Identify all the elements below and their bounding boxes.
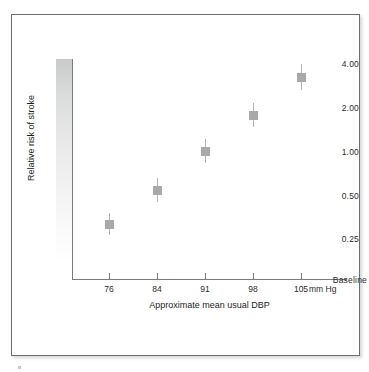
x-tick-mark-98 bbox=[253, 273, 254, 280]
y-tick-label-0_25: 0.25 bbox=[311, 234, 359, 244]
figure-canvas: 4.00 2.00 1.00 0.50 0.25 Baseline Relati… bbox=[0, 0, 369, 372]
marker-square-76 bbox=[105, 220, 114, 229]
marker-square-98 bbox=[249, 111, 258, 120]
marker-square-91 bbox=[201, 147, 210, 156]
marker-square-84 bbox=[153, 186, 162, 195]
x-tick-label-98: 98 bbox=[233, 284, 273, 294]
y-axis-gradient-band bbox=[56, 59, 72, 280]
x-tick-label-84: 84 bbox=[137, 284, 177, 294]
x-tick-mark-105 bbox=[301, 273, 302, 280]
scan-artifact-speck bbox=[18, 366, 21, 369]
plot-area: 4.00 2.00 1.00 0.50 0.25 Baseline Relati… bbox=[12, 15, 359, 355]
x-tick-label-91: 91 bbox=[185, 284, 225, 294]
y-tick-label-1: 1.00 bbox=[311, 147, 359, 157]
y-tick-label-4: 4.00 bbox=[311, 59, 359, 69]
x-axis-title: Approximate mean usual DBP bbox=[72, 300, 347, 310]
y-tick-label-0_50: 0.50 bbox=[311, 191, 359, 201]
y-axis-title: Relative risk of stroke bbox=[26, 78, 36, 198]
x-axis-line bbox=[72, 279, 347, 280]
x-tick-mark-76 bbox=[109, 273, 110, 280]
x-tick-label-76: 76 bbox=[89, 284, 129, 294]
chart-frame: 4.00 2.00 1.00 0.50 0.25 Baseline Relati… bbox=[11, 14, 360, 356]
y-axis-line bbox=[72, 59, 73, 280]
x-axis-unit-label: mm Hg bbox=[309, 284, 336, 294]
marker-square-105 bbox=[297, 73, 306, 82]
x-tick-mark-84 bbox=[157, 273, 158, 280]
y-tick-label-2: 2.00 bbox=[311, 103, 359, 113]
x-tick-mark-91 bbox=[205, 273, 206, 280]
